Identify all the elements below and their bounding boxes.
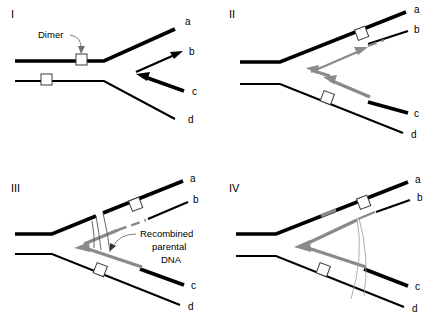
recombined-callout-line-2: parental <box>152 241 186 252</box>
panel-IV-graphic: IV a b c d <box>218 164 436 327</box>
panel-II-graphic: II a b c <box>218 0 436 163</box>
arm-label-c-II: c <box>414 108 419 119</box>
strand-b-III <box>148 202 188 219</box>
panel-II: II a b c <box>218 0 436 163</box>
panel-label-IV: IV <box>229 182 240 194</box>
panel-label-I: I <box>11 8 14 20</box>
panel-label-III: III <box>11 182 20 194</box>
arm-label-b-II: b <box>414 24 420 35</box>
recombined-callout-line-3: DNA <box>161 254 182 265</box>
arm-label-b-I: b <box>189 46 195 57</box>
arm-label-a-IV: a <box>415 174 421 185</box>
arm-label-d-III: d <box>188 301 194 312</box>
arm-label-c-I: c <box>192 86 197 97</box>
junction-hairline-right-IV <box>359 218 366 296</box>
arm-label-c-III: c <box>191 280 196 291</box>
junction-line-outer-III <box>92 221 94 248</box>
gray-recombined-strand-III <box>82 247 142 267</box>
arm-label-b-III: b <box>193 194 199 205</box>
strand-a-proximal-III <box>15 216 96 234</box>
dimer-square-lower-II <box>320 91 334 105</box>
gray-segment-b-IV <box>358 212 375 219</box>
strand-d-III <box>15 254 180 305</box>
arrowhead-b-I <box>170 51 183 59</box>
strand-c-I <box>142 76 184 91</box>
figure-root: I Dimer a b c d II <box>0 0 436 327</box>
strand-c-III <box>140 269 184 285</box>
arm-label-b-IV: b <box>417 192 423 203</box>
gray-arrowhead-apex-IV <box>294 240 311 252</box>
gray-recombined-upper-III <box>84 230 118 244</box>
panel-IV: IV a b c d <box>218 164 436 327</box>
arm-label-d-I: d <box>188 114 194 125</box>
strand-c-IV <box>364 269 408 286</box>
recombined-callout-leader <box>113 234 136 246</box>
recombined-callout-line-1: Recombined <box>140 228 193 239</box>
strand-d-II <box>240 84 403 133</box>
strand-d-I <box>15 81 175 119</box>
arm-label-a-III: a <box>190 173 196 184</box>
arm-label-a-II: a <box>414 4 420 15</box>
dimer-callout-label: Dimer <box>38 29 63 40</box>
strand-a-II <box>240 12 406 62</box>
recombined-callout-arrowhead <box>110 243 116 251</box>
dimer-callout-arrowhead <box>78 46 85 54</box>
arm-label-a-I: a <box>185 16 191 27</box>
panel-III-graphic: III Recombined paren <box>0 164 218 327</box>
strand-a-IV <box>236 182 408 234</box>
arm-label-c-IV: c <box>415 281 420 292</box>
panel-I-graphic: I Dimer a b c d <box>0 0 218 163</box>
strand-c-II <box>368 102 408 113</box>
dimer-square-lower-IV <box>316 263 330 277</box>
panel-label-II: II <box>229 8 235 20</box>
gray-arrow-upper-IV <box>304 220 357 245</box>
panel-III: III Recombined paren <box>0 164 218 327</box>
gray-strand-lower-II <box>330 80 370 97</box>
panel-I: I Dimer a b c d <box>0 0 218 163</box>
dimer-square-lower-I <box>41 74 52 85</box>
arm-label-d-II: d <box>411 129 417 140</box>
strand-b-IV <box>376 200 410 212</box>
strand-b-II <box>368 31 408 44</box>
gray-strand-upper-II <box>311 50 362 72</box>
gray-arrowhead-apex-III <box>74 242 90 252</box>
arm-label-d-IV: d <box>412 303 418 314</box>
gray-arrow-lower-IV <box>308 248 366 267</box>
junction-line-left-III <box>96 216 101 250</box>
dimer-square-upper-I <box>76 54 87 65</box>
